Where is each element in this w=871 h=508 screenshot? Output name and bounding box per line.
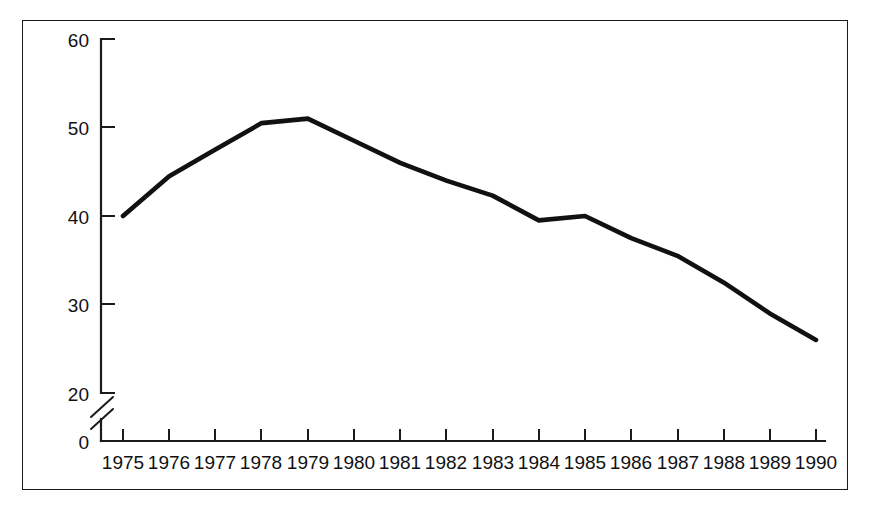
- x-tick-label-1982: 1982: [425, 452, 467, 473]
- x-tick-label-1979: 1979: [287, 452, 329, 473]
- x-tick-label-1988: 1988: [703, 452, 745, 473]
- x-tick-label-1975: 1975: [102, 452, 144, 473]
- line-chart-plot: 60 50 40 30 20 0: [23, 21, 849, 491]
- y-tick-label-40: 40: [68, 207, 89, 228]
- x-tick-label-1983: 1983: [472, 452, 514, 473]
- data-series-line: [123, 119, 816, 340]
- x-tick-label-1978: 1978: [240, 452, 282, 473]
- x-tick-label-1987: 1987: [657, 452, 699, 473]
- x-tick-label-1977: 1977: [194, 452, 236, 473]
- y-tick-label-50: 50: [68, 118, 89, 139]
- y-tick-label-30: 30: [68, 295, 89, 316]
- y-tick-label-20: 20: [68, 384, 89, 405]
- x-tick-marks: [123, 429, 816, 441]
- x-tick-label-1976: 1976: [148, 452, 190, 473]
- x-tick-label-1985: 1985: [564, 452, 606, 473]
- x-tick-label-1986: 1986: [610, 452, 652, 473]
- y-tick-marks: [101, 39, 115, 393]
- x-tick-label-1990: 1990: [795, 452, 837, 473]
- y-tick-label-60: 60: [68, 30, 89, 51]
- x-tick-label-1980: 1980: [333, 452, 375, 473]
- x-tick-label-1984: 1984: [518, 452, 561, 473]
- y-tick-label-0: 0: [78, 432, 89, 453]
- figure-frame: 60 50 40 30 20 0: [22, 20, 848, 490]
- x-tick-label-1981: 1981: [379, 452, 421, 473]
- chart-page: 60 50 40 30 20 0: [0, 0, 871, 508]
- x-tick-label-1989: 1989: [749, 452, 791, 473]
